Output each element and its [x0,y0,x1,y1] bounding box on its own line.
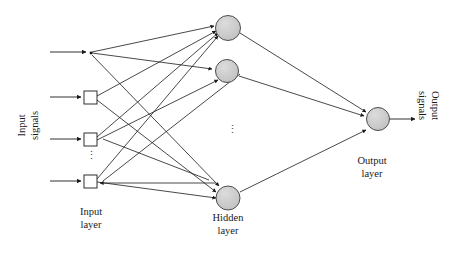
synapse-edges [92,26,366,198]
edge-i1-h3 [92,55,219,186]
hidden-ellipsis-icon: ⋮ [227,124,238,135]
edge-h2-o1 [239,76,364,116]
input-signals-label: Input signals [16,96,41,156]
edge-h1-o1 [240,33,366,112]
edge-i3-h1 [97,33,218,137]
input-ellipsis-icon: ⋮ [86,150,97,161]
hidden-nodes [216,16,241,211]
external-input-arrows [50,52,86,181]
input-node-2 [84,91,97,104]
hidden-node-1 [216,16,241,41]
output-nodes [367,108,390,131]
edge-i4-h1 [97,36,218,179]
hidden-node-2 [216,60,239,83]
edge-i2-h3 [97,100,216,192]
input-layer-label: Input layer [60,206,122,231]
neural-network-figure: ⋮ ⋮ Input signals Output signals Input l… [0,0,451,253]
input-nodes [84,52,97,188]
input-node-1 [90,52,93,55]
hidden-layer-label: Hidden layer [197,212,259,237]
input-node-4 [84,175,97,188]
hidden-node-3 [216,186,240,210]
input-node-3 [84,133,97,146]
output-signals-label: Output signals [416,76,441,136]
edge-h2-back [103,74,240,181]
edge-i4-h3 [97,182,216,198]
edge-i1-h2 [92,53,212,69]
edge-i3-h2 [97,80,218,140]
edge-i1-h1 [92,26,214,52]
output-layer-label: Output layer [341,155,403,180]
output-node-1 [367,108,390,131]
